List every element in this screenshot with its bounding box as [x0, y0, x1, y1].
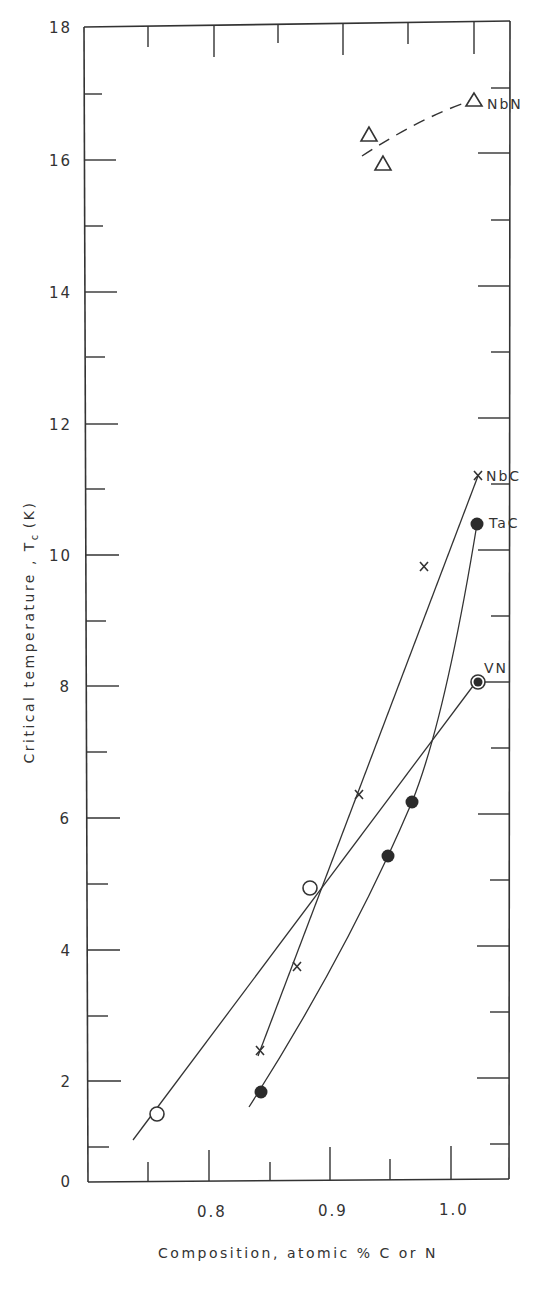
tac-filled-circle-marker	[255, 1086, 268, 1099]
y-tick-8: 8	[59, 678, 71, 696]
nbn-triangle-marker	[361, 127, 377, 141]
vn-label: VN	[484, 660, 508, 676]
vn-line	[133, 686, 473, 1140]
y-tick-labels: 0 2 4 6 8 10 12 14 16 18	[49, 19, 72, 1191]
x-tick-0.9: 0.9	[318, 1202, 348, 1220]
tac-filled-circle-marker	[382, 850, 395, 863]
nbc-x-marker	[474, 471, 482, 480]
y-tick-0: 0	[60, 1173, 72, 1191]
nbn-triangle-marker	[466, 93, 482, 106]
y-tick-10: 10	[49, 547, 72, 565]
y-tick-2: 2	[60, 1073, 72, 1091]
series-vn: VN	[133, 660, 508, 1140]
tac-filled-circle-marker	[471, 518, 484, 531]
nbn-line	[362, 101, 470, 156]
vn-open-circle-marker	[303, 881, 317, 895]
x-axis-ticks-bottom	[148, 1146, 451, 1182]
y-axis-ticks-left	[84, 27, 121, 1147]
y-axis-title-unit: (K)	[21, 501, 37, 529]
nbc-x-marker	[293, 962, 301, 971]
x-tick-labels: 0.8 0.9 1.0	[197, 1201, 469, 1221]
nbn-triangle-marker	[375, 156, 391, 170]
x-axis-ticks-top	[148, 21, 474, 57]
nbc-line	[258, 476, 478, 1056]
y-axis-title-main: Critical temperature , T	[21, 540, 37, 763]
y-tick-4: 4	[60, 942, 72, 960]
y-tick-12: 12	[49, 416, 72, 434]
nbn-label: NbN	[487, 96, 523, 112]
tac-filled-circle-marker	[406, 796, 419, 809]
nbc-x-marker	[420, 562, 428, 571]
y-tick-16: 16	[49, 152, 72, 170]
nbc-x-marker	[256, 1046, 264, 1055]
plot-frame	[84, 21, 510, 1182]
svg-text:Critical temperature , Tc(K): Critical temperature , Tc(K)	[21, 501, 40, 764]
x-axis-title: Composition, atomic % C or N	[158, 1245, 438, 1261]
y-tick-14: 14	[49, 284, 72, 302]
y-tick-18: 18	[49, 19, 72, 37]
x-tick-1.0: 1.0	[439, 1201, 469, 1219]
y-axis-title-sub: c	[29, 532, 40, 540]
nbc-label: NbC	[486, 468, 521, 484]
y-tick-6: 6	[59, 810, 71, 828]
tac-line	[249, 524, 477, 1107]
y-axis-ticks-right	[477, 88, 523, 1144]
y-axis-title: Critical temperature , Tc(K)	[21, 501, 40, 764]
x-tick-0.8: 0.8	[197, 1203, 227, 1221]
chart-canvas: 0 2 4 6 8 10 12 14 16 18 0.8 0.9 1.0 Com…	[0, 0, 557, 1290]
series-tac: TaC	[249, 515, 520, 1107]
vn-open-circle-marker	[150, 1107, 164, 1121]
tac-label: TaC	[488, 515, 520, 531]
vn-circled-dot-center	[474, 678, 483, 687]
series-nbn: NbN	[361, 93, 523, 170]
series-nbc: NbC	[256, 468, 521, 1056]
